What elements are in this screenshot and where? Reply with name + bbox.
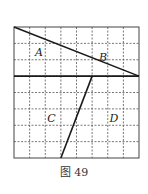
region-label-c: C xyxy=(47,112,56,125)
grid-lines xyxy=(14,27,139,158)
region-label-b: B xyxy=(98,51,107,64)
region-label-a: A xyxy=(34,46,43,59)
region-label-d: D xyxy=(109,112,119,125)
figure-caption: 图 49 xyxy=(0,163,148,179)
